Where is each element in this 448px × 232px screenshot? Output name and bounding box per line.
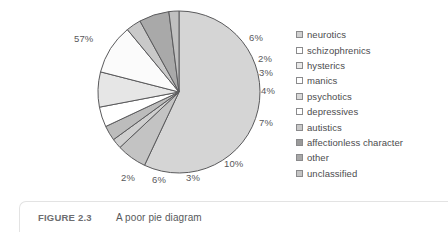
legend-item-label: schizophrenics: [307, 45, 371, 56]
pie-percentage-label: 6%: [152, 174, 166, 185]
legend-swatch-icon: [296, 139, 303, 146]
legend-swatch-icon: [296, 77, 303, 84]
legend-swatch-icon: [296, 170, 303, 177]
legend-swatch-icon: [296, 93, 303, 100]
pie-percentage-label: 6%: [249, 32, 263, 43]
pie-percentage-label: 57%: [74, 33, 93, 44]
legend-swatch-icon: [296, 124, 303, 131]
figure-container: 57%6%2%3%4%7%10%3%6%2% neuroticsschizoph…: [0, 0, 448, 232]
legend-item-label: affectionless character: [307, 137, 403, 148]
figure-number-label: FIGURE 2.3: [38, 212, 116, 223]
legend-item-label: depressives: [307, 106, 358, 117]
legend-swatch-icon: [296, 62, 303, 69]
pie-slice-group: [98, 11, 260, 173]
legend-item: other: [296, 150, 446, 165]
legend-item-label: manics: [307, 75, 337, 86]
legend-item: psychotics: [296, 89, 446, 104]
chart-legend: neuroticsschizophrenicshystericsmanicsps…: [296, 27, 446, 181]
legend-item: neurotics: [296, 27, 446, 42]
legend-item-label: hysterics: [307, 60, 345, 71]
legend-item: hysterics: [296, 58, 446, 73]
legend-item: manics: [296, 73, 446, 88]
legend-item-label: autistics: [307, 122, 342, 133]
legend-item: schizophrenics: [296, 42, 446, 57]
pie-percentage-label: 10%: [224, 158, 243, 169]
legend-item: depressives: [296, 104, 446, 119]
pie-percentage-label: 3%: [259, 67, 273, 78]
legend-item-label: other: [307, 152, 329, 163]
legend-item: autistics: [296, 119, 446, 134]
figure-caption-text: A poor pie diagram: [116, 212, 202, 223]
legend-item-label: neurotics: [307, 29, 346, 40]
pie-percentage-label: 4%: [261, 85, 275, 96]
pie-percentage-label: 3%: [186, 172, 200, 183]
legend-item-label: psychotics: [307, 91, 352, 102]
pie-percentage-label: 2%: [121, 172, 135, 183]
pie-percentage-label: 2%: [258, 53, 272, 64]
pie-percentage-label: 7%: [259, 117, 273, 128]
figure-caption-bar: FIGURE 2.3 A poor pie diagram: [19, 201, 448, 232]
legend-swatch-icon: [296, 47, 303, 54]
legend-swatch-icon: [296, 108, 303, 115]
legend-item: affectionless character: [296, 135, 446, 150]
legend-item-label: unclassified: [307, 168, 357, 179]
legend-item: unclassified: [296, 166, 446, 181]
legend-swatch-icon: [296, 154, 303, 161]
legend-swatch-icon: [296, 31, 303, 38]
